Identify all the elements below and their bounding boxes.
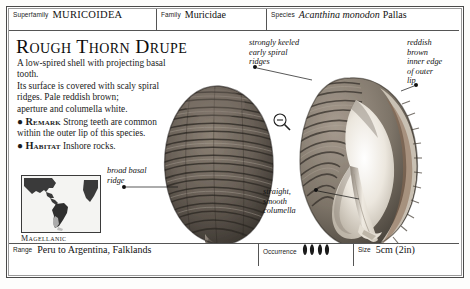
- superfamily-key: Superfamily: [13, 11, 48, 18]
- description-line-2: Its surface is covered with scaly spiral: [17, 81, 169, 92]
- description-line-1: A low-spired shell with projecting basal…: [17, 58, 169, 81]
- annotation-basal-ridge: broad basal ridge: [107, 166, 163, 185]
- remark-keyword: Remark: [25, 116, 60, 127]
- shell-image-dorsal: [157, 82, 282, 243]
- annotation-columella: straight, smooth columella: [263, 187, 323, 216]
- field-guide-page: Superfamily MURICOIDEA Family Muricidae …: [0, 0, 470, 289]
- range-value: Peru to Argentina, Falklands: [37, 244, 151, 255]
- shell-icon: [302, 244, 308, 255]
- shell-image-aperture: [294, 74, 426, 243]
- species-key: Species: [271, 11, 295, 18]
- taxonomy-cell-superfamily: Superfamily MURICOIDEA: [9, 9, 157, 30]
- annotation-keeled-ridges: strongly keeled early spiral ridges: [249, 38, 331, 67]
- main-content: Rough Thorn Drupe A low-spired shell wit…: [9, 30, 459, 243]
- size-value: 5cm (2in): [376, 244, 415, 255]
- occurrence-key: Occurrence: [263, 248, 297, 255]
- bullet-icon: ●: [17, 116, 23, 127]
- size-key: Size: [358, 246, 371, 253]
- superfamily-value: MURICOIDEA: [52, 9, 122, 20]
- magnifier-minus-icon[interactable]: [272, 112, 292, 136]
- map-region-label: Magellanic: [21, 234, 66, 243]
- family-value: Muricidae: [185, 9, 226, 20]
- footer-cell-occurrence: Occurrence: [259, 244, 354, 266]
- remark-entry: ● Remark Strong teeth are common within …: [17, 116, 169, 140]
- habitat-text: Inshore rocks.: [63, 141, 116, 151]
- species-binomial: Acanthina monodon: [299, 9, 380, 20]
- footer-cell-range: Range Peru to Argentina, Falklands: [9, 244, 259, 266]
- shell-icon: [317, 244, 323, 255]
- bullet-icon: ●: [17, 140, 23, 151]
- description-line-3: ridges. Pale reddish brown;: [17, 92, 169, 103]
- shell-icon: [324, 244, 330, 255]
- taxonomy-cell-species: Species Acanthina monodon Pallas: [267, 9, 459, 30]
- annotation-reddish-lip: reddish brown inner edge of outer lip: [407, 38, 459, 86]
- range-key: Range: [13, 246, 32, 253]
- taxonomy-cell-family: Family Muricidae: [157, 9, 267, 30]
- habitat-entry: ● Habitat Inshore rocks.: [17, 140, 169, 152]
- footer-cell-size: Size 5cm (2in): [354, 244, 459, 266]
- page-title: Rough Thorn Drupe: [16, 36, 187, 58]
- description-line-4: aperture and columella white.: [17, 104, 169, 115]
- shell-icon: [309, 244, 315, 255]
- footer-data-strip: Range Peru to Argentina, Falklands Occur…: [9, 243, 459, 266]
- habitat-keyword: Habitat: [25, 140, 60, 151]
- family-key: Family: [161, 11, 181, 18]
- species-author: Pallas: [383, 9, 407, 20]
- distribution-map: [21, 175, 101, 233]
- taxonomy-header: Superfamily MURICOIDEA Family Muricidae …: [9, 9, 459, 31]
- occurrence-rating: [302, 244, 331, 255]
- description-block: A low-spired shell with projecting basal…: [17, 58, 169, 152]
